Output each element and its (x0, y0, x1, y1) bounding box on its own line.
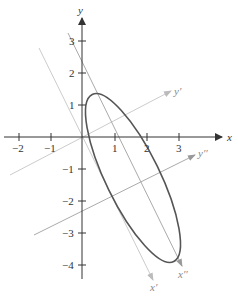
y-tick-label: −2 (62, 195, 74, 207)
x-prime-label: x′ (149, 281, 158, 293)
y-axis-label: y (77, 4, 83, 16)
x-tick-label: 1 (112, 142, 118, 154)
x-tick-label: 3 (176, 142, 182, 154)
x-tick-label: −2 (12, 142, 24, 154)
x-axis-label: x (226, 131, 232, 143)
x-tick-label: 2 (144, 142, 150, 154)
y-tick-label: −4 (62, 259, 74, 271)
y-axis (78, 18, 86, 279)
y-tick-label: 3 (69, 35, 75, 47)
y-tick-label: −1 (62, 163, 74, 175)
y-tick-label: 1 (69, 99, 75, 111)
y-double-prime-axis (34, 155, 195, 235)
x-double-prime-axis (68, 33, 182, 266)
x-tick-label: −1 (44, 142, 56, 154)
x-prime-axis (39, 48, 153, 280)
y-double-prime-label: y′′ (197, 147, 208, 159)
y-tick-label: −3 (62, 227, 74, 239)
x-axis (4, 133, 222, 141)
y-prime-label: y′ (173, 85, 182, 97)
y-tick-label: 2 (69, 67, 75, 79)
x-double-prime-label: x′′ (177, 268, 188, 280)
rotated-ellipse-diagram: x y −2 −1 1 2 3 3 2 1 −1 −2 −3 −4 y′ y′′… (0, 0, 238, 299)
